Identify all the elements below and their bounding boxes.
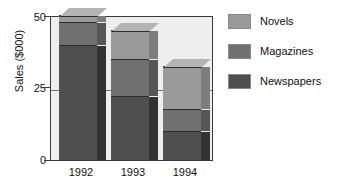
x-tick-label-1994: 1994 xyxy=(160,166,210,178)
bar-segment-1994-magazines[interactable] xyxy=(163,109,201,131)
legend-label-magazines: Magazines xyxy=(260,44,313,59)
legend: Novels Magazines Newspapers xyxy=(228,12,340,102)
x-tick-label-1993: 1993 xyxy=(108,166,158,178)
bar-segment-1992-novels[interactable] xyxy=(59,15,97,22)
bar-segment-1994-newspapers[interactable] xyxy=(163,131,201,160)
legend-label-newspapers: Newspapers xyxy=(260,74,321,89)
bar-segment-side-face xyxy=(97,23,106,45)
bar-segment-side-face xyxy=(149,60,158,97)
legend-swatch-newspapers xyxy=(228,74,251,89)
legend-label-novels: Novels xyxy=(260,14,294,29)
bar-segment-side-face xyxy=(97,16,106,22)
bar-segment-side-face xyxy=(97,46,106,160)
y-tick-label-25: 25 xyxy=(20,83,46,93)
bar-segment-1994-novels[interactable] xyxy=(163,66,201,110)
bar-segment-side-face xyxy=(201,67,210,110)
legend-item-magazines[interactable]: Magazines xyxy=(228,42,340,72)
plot-area xyxy=(50,16,213,161)
x-tick-label-1992: 1992 xyxy=(56,166,106,178)
bar-1994[interactable] xyxy=(163,15,201,160)
bar-segment-side-face xyxy=(149,31,158,59)
legend-item-newspapers[interactable]: Newspapers xyxy=(228,72,340,102)
stacked-bar-chart: Sales ($000) 50 25 0 1992 1993 1994 Nove… xyxy=(0,0,340,189)
bar-segment-side-face xyxy=(149,97,158,160)
legend-item-novels[interactable]: Novels xyxy=(228,12,340,42)
y-axis-tick-labels: 50 25 0 xyxy=(16,0,46,189)
legend-swatch-magazines xyxy=(228,44,251,59)
bar-segment-1992-newspapers[interactable] xyxy=(59,45,97,160)
legend-swatch-novels xyxy=(228,14,251,29)
y-tick-label-50: 50 xyxy=(20,12,46,22)
bar-1993[interactable] xyxy=(111,15,149,160)
bar-segment-1993-newspapers[interactable] xyxy=(111,96,149,160)
bar-segment-1993-magazines[interactable] xyxy=(111,59,149,97)
bar-segment-side-face xyxy=(201,110,210,131)
bar-segment-1992-magazines[interactable] xyxy=(59,22,97,45)
bar-segment-1993-novels[interactable] xyxy=(111,30,149,59)
bar-1992[interactable] xyxy=(59,15,97,160)
bar-segment-side-face xyxy=(201,132,210,160)
y-tick-label-0: 0 xyxy=(20,155,46,165)
